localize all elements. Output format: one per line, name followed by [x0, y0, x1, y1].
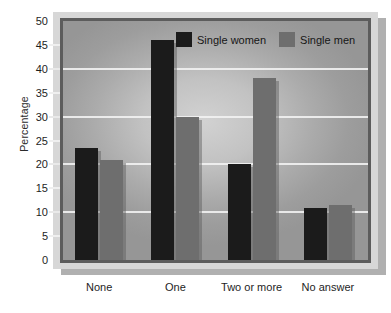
- bar-one-single-women: [151, 40, 174, 260]
- bars-layer: [63, 21, 368, 260]
- bar-one-single-men: [176, 117, 199, 260]
- chart-legend: Single womenSingle men: [176, 30, 355, 49]
- y-tick-label-10: 10: [8, 207, 48, 218]
- y-tick-mark-35: [49, 92, 60, 94]
- x-label-none: None: [86, 281, 112, 293]
- y-tick-mark-20: [49, 163, 60, 165]
- legend-swatch-icon: [176, 32, 192, 47]
- legend-item-single-men: Single men: [279, 32, 355, 47]
- legend-label: Single women: [197, 34, 266, 46]
- y-tick-label-30: 30: [8, 111, 48, 122]
- y-tick-mark-25: [49, 140, 60, 142]
- bar-none-single-women: [75, 148, 98, 260]
- y-tick-label-5: 5: [8, 231, 48, 242]
- y-tick-label-40: 40: [8, 63, 48, 74]
- bar-two-or-more-single-men: [253, 78, 276, 260]
- y-tick-label-50: 50: [8, 16, 48, 27]
- x-label-two-or-more: Two or more: [221, 281, 282, 293]
- y-tick-label-15: 15: [8, 183, 48, 194]
- y-tick-mark-40: [49, 68, 60, 70]
- y-tick-mark-30: [49, 116, 60, 118]
- y-tick-label-25: 25: [8, 135, 48, 146]
- y-tick-mark-10: [49, 211, 60, 213]
- legend-label: Single men: [300, 34, 355, 46]
- x-label-no-answer: No answer: [302, 281, 355, 293]
- legend-swatch-icon: [279, 32, 295, 47]
- y-tick-label-45: 45: [8, 39, 48, 50]
- y-tick-label-0: 0: [8, 255, 48, 266]
- y-tick-mark-5: [49, 235, 60, 237]
- bar-no-answer-single-men: [329, 205, 352, 260]
- x-axis-category-labels: NoneOneTwo or moreNo answer: [63, 281, 368, 299]
- x-label-one: One: [165, 281, 186, 293]
- bar-no-answer-single-women: [304, 208, 327, 260]
- bar-none-single-men: [100, 160, 123, 260]
- y-tick-mark-45: [49, 44, 60, 46]
- y-axis-tick-labels: 05101520253035404550: [8, 0, 48, 313]
- bar-chart: Percentage 05101520253035404550 Single w…: [0, 0, 391, 313]
- y-tick-mark-15: [49, 187, 60, 189]
- y-tick-label-35: 35: [8, 87, 48, 98]
- legend-item-single-women: Single women: [176, 32, 266, 47]
- y-tick-label-20: 20: [8, 159, 48, 170]
- bar-two-or-more-single-women: [228, 164, 251, 260]
